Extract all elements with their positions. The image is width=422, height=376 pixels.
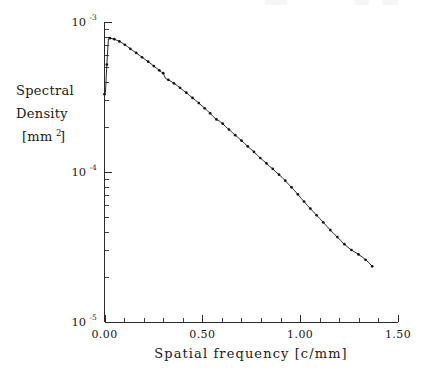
data-point xyxy=(215,118,218,121)
data-point xyxy=(240,139,243,142)
data-point xyxy=(191,97,194,100)
data-point xyxy=(173,82,176,85)
data-point xyxy=(271,167,274,170)
data-point xyxy=(203,107,206,110)
data-point xyxy=(228,128,231,131)
data-point xyxy=(162,72,165,75)
data-point xyxy=(253,151,256,154)
data-point xyxy=(113,38,116,41)
data-point xyxy=(284,179,287,182)
data-point xyxy=(278,173,281,176)
data-point xyxy=(209,112,212,115)
data-point xyxy=(343,243,346,246)
data-point xyxy=(303,200,306,203)
data-point xyxy=(147,60,150,63)
x-tick-label: 0.50 xyxy=(189,328,215,341)
data-point xyxy=(141,56,144,59)
data-point xyxy=(135,52,138,55)
y-axis-title-line1: Spectral xyxy=(16,83,74,98)
data-point xyxy=(357,253,360,256)
y-axis xyxy=(105,22,112,323)
y-axis-title: Spectral Density [mm 2 ] xyxy=(16,83,74,144)
data-point xyxy=(322,221,325,224)
data-point xyxy=(265,162,268,165)
data-point xyxy=(296,193,299,196)
spectral-density-chart: 10-510-410-3 0.000.501.001.50 Spectral D… xyxy=(0,0,422,376)
data-point xyxy=(329,229,332,232)
data-point xyxy=(246,145,249,148)
x-axis xyxy=(105,315,399,323)
y-axis-title-line2: Density xyxy=(16,106,68,121)
data-point xyxy=(350,249,353,252)
y-tick-label-exponent: -5 xyxy=(90,313,98,322)
x-axis-title: Spatial frequency [c/mm] xyxy=(154,346,348,361)
x-tick-label: 1.50 xyxy=(385,328,411,341)
y-axis-ticks xyxy=(105,23,112,323)
data-point xyxy=(290,186,293,189)
data-point xyxy=(118,40,121,43)
data-point xyxy=(129,48,132,51)
y-tick-label-base: 10 xyxy=(72,165,87,179)
y-tick-label-base: 10 xyxy=(72,315,87,329)
figure-container: 10-510-410-3 0.000.501.001.50 Spectral D… xyxy=(0,0,422,376)
data-point xyxy=(315,214,318,217)
spectral-density-curve xyxy=(105,38,373,266)
data-point xyxy=(158,69,161,72)
data-point xyxy=(364,258,367,261)
x-tick-label: 1.00 xyxy=(287,328,313,341)
x-tick-label: 0.00 xyxy=(91,328,117,341)
y-axis-title-line3-suffix: ] xyxy=(60,129,65,144)
data-point xyxy=(179,86,182,89)
data-point xyxy=(336,236,339,239)
data-point xyxy=(106,63,109,66)
data-point xyxy=(185,91,188,94)
y-tick-labels: 10-510-410-3 xyxy=(72,13,98,329)
data-point xyxy=(109,37,112,40)
data-point xyxy=(309,207,312,210)
data-point xyxy=(259,157,262,160)
data-point xyxy=(371,265,374,268)
data-point xyxy=(124,43,127,46)
data-point xyxy=(167,78,170,81)
y-tick-label-base: 10 xyxy=(72,15,87,29)
x-axis-ticks xyxy=(106,315,399,322)
data-point xyxy=(221,122,224,125)
x-tick-labels: 0.000.501.001.50 xyxy=(91,328,411,341)
data-point xyxy=(234,134,237,137)
data-point xyxy=(152,65,155,68)
y-tick-label-exponent: -3 xyxy=(90,13,98,22)
y-axis-title-line3-prefix: [mm xyxy=(22,129,53,144)
data-point xyxy=(103,93,106,96)
y-tick-label-exponent: -4 xyxy=(90,163,98,172)
data-point xyxy=(197,102,200,105)
